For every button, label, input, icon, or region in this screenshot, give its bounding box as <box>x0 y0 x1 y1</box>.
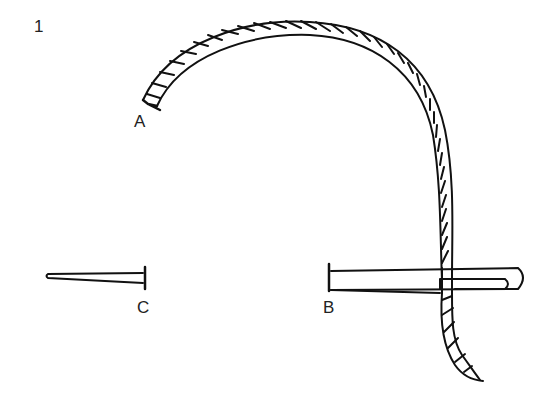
thread <box>143 21 483 381</box>
needle-b <box>329 264 523 293</box>
pin-c <box>47 267 146 289</box>
diagram-canvas <box>0 0 556 419</box>
